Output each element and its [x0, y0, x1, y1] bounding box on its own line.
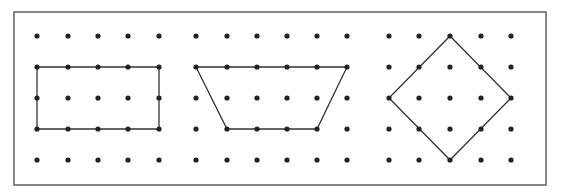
grid-right: [386, 33, 513, 162]
grid-dot: [254, 95, 259, 100]
figure-frame: [14, 12, 546, 185]
grid-dot: [254, 126, 259, 131]
grid-dot: [478, 33, 483, 38]
grid-dot: [314, 95, 319, 100]
grid-dot: [344, 126, 349, 131]
grid-dot: [95, 95, 100, 100]
grid-dot: [314, 157, 319, 162]
grid-dot: [125, 126, 130, 131]
grid-dot: [125, 95, 130, 100]
grid-dot: [65, 126, 70, 131]
grid-dot: [284, 95, 289, 100]
grid-dot: [34, 64, 39, 69]
grid-dot: [508, 64, 513, 69]
grid-dot: [447, 157, 452, 162]
grid-dot: [386, 64, 391, 69]
grid-dot: [224, 33, 229, 38]
grid-dot: [193, 33, 198, 38]
grid-dot: [478, 95, 483, 100]
grid-dot: [65, 95, 70, 100]
grid-dot: [344, 64, 349, 69]
grid-dot: [508, 157, 513, 162]
grid-dot: [156, 33, 161, 38]
dot-grid-figure: [0, 0, 565, 193]
grid-dot: [34, 157, 39, 162]
grid-dot: [125, 33, 130, 38]
grid-dot: [224, 95, 229, 100]
grid-dot: [508, 126, 513, 131]
grid-dot: [447, 33, 452, 38]
grid-dot: [478, 64, 483, 69]
grid-dot: [386, 33, 391, 38]
grid-dot: [447, 126, 452, 131]
grid-dot: [386, 157, 391, 162]
grid-dot: [254, 64, 259, 69]
grid-dot: [344, 95, 349, 100]
grid-dot: [34, 126, 39, 131]
grid-dot: [34, 95, 39, 100]
grid-dot: [284, 157, 289, 162]
grid-dot: [508, 33, 513, 38]
grid-dot: [34, 33, 39, 38]
grid-dot: [65, 33, 70, 38]
grid-dot: [478, 157, 483, 162]
grid-dot: [478, 126, 483, 131]
grid-dot: [344, 157, 349, 162]
dot-layer: [34, 33, 513, 162]
grid-dot: [193, 126, 198, 131]
grid-dot: [314, 126, 319, 131]
grid-dot: [156, 157, 161, 162]
grid-dot: [508, 95, 513, 100]
polygon-layer: [37, 36, 511, 160]
grid-dot: [344, 33, 349, 38]
grid-dot: [125, 157, 130, 162]
grid-dot: [224, 64, 229, 69]
grid-dot: [224, 157, 229, 162]
grid-dot: [314, 33, 319, 38]
grid-dot: [447, 95, 452, 100]
grid-dot: [386, 126, 391, 131]
grid-dot: [156, 95, 161, 100]
grid-dot: [125, 64, 130, 69]
grid-dot: [284, 64, 289, 69]
grid-dot: [95, 64, 100, 69]
grid-dot: [416, 157, 421, 162]
grid-dot: [224, 126, 229, 131]
grid-dot: [193, 157, 198, 162]
grid-dot: [447, 64, 452, 69]
grid-middle: [193, 33, 349, 162]
grid-dot: [416, 64, 421, 69]
grid-dot: [284, 33, 289, 38]
grid-dot: [416, 126, 421, 131]
grid-dot: [284, 126, 289, 131]
grid-dot: [156, 64, 161, 69]
grid-dot: [254, 33, 259, 38]
grid-dot: [95, 126, 100, 131]
grid-dot: [95, 157, 100, 162]
grid-dot: [156, 126, 161, 131]
grid-dot: [416, 33, 421, 38]
grid-dot: [193, 64, 198, 69]
grid-dot: [416, 95, 421, 100]
grid-dot: [254, 157, 259, 162]
grid-left: [34, 33, 161, 162]
grid-dot: [386, 95, 391, 100]
grid-dot: [65, 157, 70, 162]
grid-dot: [193, 95, 198, 100]
grid-dot: [314, 64, 319, 69]
grid-dot: [65, 64, 70, 69]
trapezoid-shape: [196, 67, 347, 129]
grid-dot: [95, 33, 100, 38]
